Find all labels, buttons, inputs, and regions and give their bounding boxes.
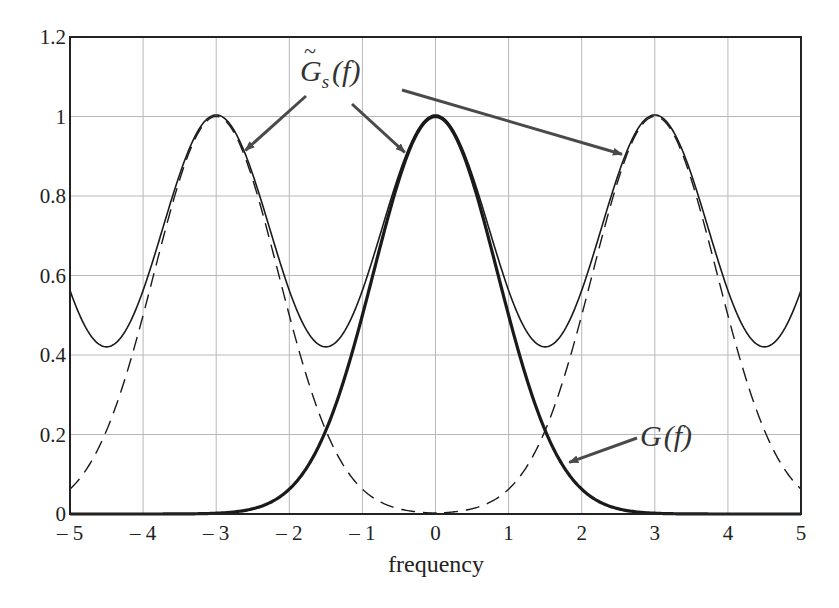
annotation-arrow xyxy=(569,438,637,462)
y-tick-label: 0 xyxy=(56,502,67,526)
y-tick-label: 1.2 xyxy=(40,25,66,49)
annotation-gs-tilde: ~ xyxy=(304,38,316,63)
annotation-arrows xyxy=(245,90,637,462)
annotation-arrow xyxy=(352,104,405,152)
y-tick-label: 0.8 xyxy=(40,184,66,208)
y-tick-label: 0.4 xyxy=(40,343,67,367)
annotation-arrow xyxy=(402,90,622,154)
y-tick-label: 1 xyxy=(56,105,67,129)
y-tick-label: 0.6 xyxy=(40,264,66,288)
x-tick-label: – 3 xyxy=(202,521,229,545)
x-tick-label: 3 xyxy=(650,521,661,545)
x-tick-label: 4 xyxy=(723,521,734,545)
x-tick-label: 1 xyxy=(503,521,514,545)
annotation-g-label: G(f) xyxy=(640,419,692,453)
annotation-g: G(f) xyxy=(640,419,692,453)
annotation-gs: Gs(f) ~ xyxy=(300,38,360,92)
x-tick-label: – 4 xyxy=(129,521,157,545)
annotation-arrow xyxy=(245,96,306,150)
y-tick-label: 0.2 xyxy=(40,423,66,447)
x-tick-label: 2 xyxy=(576,521,587,545)
y-axis-ticks: 00.20.40.60.811.2 xyxy=(40,25,67,526)
x-axis-label: frequency xyxy=(388,551,484,577)
x-tick-label: – 2 xyxy=(275,521,302,545)
x-tick-label: 0 xyxy=(430,521,441,545)
chart: – 5– 4– 3– 2– 1012345 00.20.40.60.811.2 … xyxy=(0,0,839,608)
x-axis-ticks: – 5– 4– 3– 2– 1012345 xyxy=(56,521,806,545)
x-tick-label: – 1 xyxy=(348,521,375,545)
x-tick-label: 5 xyxy=(796,521,807,545)
